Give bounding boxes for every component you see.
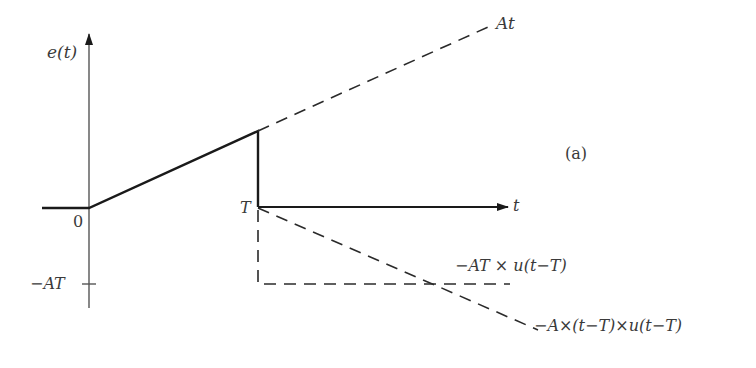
signal-e-of-t (42, 131, 258, 208)
figure-tag: (a) (565, 146, 587, 162)
delayed-ramp-label: −A×(t−T)×u(t−T) (534, 318, 682, 334)
x-tick-label-T: T (240, 200, 251, 216)
y-axis-label: e(t) (47, 44, 77, 61)
origin-label: 0 (73, 214, 83, 230)
signal-diagram (0, 0, 756, 368)
x-axis-label: t (513, 198, 519, 214)
ramp-extension-label: At (496, 15, 515, 32)
ramp-extension-At (258, 27, 488, 131)
y-tick-label: −AT (30, 276, 65, 292)
step-label: −AT × u(t−T) (455, 258, 567, 274)
